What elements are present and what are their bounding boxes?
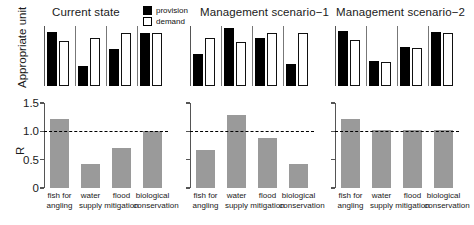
bar-r-biological-conservation (434, 130, 453, 188)
bar-demand-biological-conservation (298, 33, 308, 86)
group-separator (221, 26, 222, 86)
bar-demand-biological-conservation (152, 33, 162, 86)
top-panel-2-group-biological-conservation (428, 26, 459, 86)
bar-provision-biological-conservation (286, 64, 296, 86)
bar-r-flood-mitigation (403, 130, 422, 188)
bar-demand-water-supply (90, 38, 100, 86)
y-tick (331, 159, 335, 160)
y-tick (186, 159, 190, 160)
top-panel-0-group-biological-conservation (137, 26, 168, 86)
bar-demand-fish-for-angling (350, 40, 360, 86)
top-panel-current-state (44, 26, 168, 86)
top-panel-1-group-fish-for-angling (190, 26, 221, 86)
y-tick-label-1.5: 1.5 (23, 97, 39, 109)
group-separator (283, 26, 284, 86)
bar-r-flood-mitigation (112, 148, 131, 188)
bar-provision-flood-mitigation (255, 38, 265, 86)
y-tick (40, 102, 44, 103)
y-tick (186, 187, 190, 188)
group-separator (75, 26, 76, 86)
top-panel-1-group-flood-mitigation (252, 26, 283, 86)
legend-swatch-demand-icon (143, 17, 152, 26)
x-tick-label-biological-conservation: biological conservation (279, 191, 317, 210)
figure-root: provision demand Current state Managemen… (0, 0, 474, 225)
bar-demand-flood-mitigation (121, 33, 131, 86)
bar-r-biological-conservation (143, 131, 162, 188)
bar-r-biological-conservation (289, 164, 308, 188)
top-panel-scenario-2 (335, 26, 459, 86)
group-separator (366, 26, 367, 86)
group-separator (252, 26, 253, 86)
bottom-panel-scenario-1: fish for anglingwater supplyflood mitiga… (190, 103, 314, 188)
y-tick (331, 187, 335, 188)
y-tick-label-0: 0 (33, 182, 39, 194)
top-panel-1-group-biological-conservation (283, 26, 314, 86)
group-separator (106, 26, 107, 86)
bar-demand-water-supply (381, 62, 391, 86)
legend-label-provision: provision (156, 6, 188, 15)
bar-demand-fish-for-angling (205, 38, 215, 86)
reference-line-r1 (44, 131, 168, 132)
bar-provision-fish-for-angling (47, 32, 57, 86)
top-panel-0-group-fish-for-angling (44, 26, 75, 86)
bar-r-water-supply (81, 164, 100, 188)
bar-r-flood-mitigation (258, 138, 277, 188)
y-tick (40, 187, 44, 188)
group-separator (428, 26, 429, 86)
top-panel-2-group-flood-mitigation (397, 26, 428, 86)
top-panel-scenario-1 (190, 26, 314, 86)
bar-provision-flood-mitigation (109, 49, 119, 86)
bar-demand-flood-mitigation (412, 48, 422, 86)
top-panel-2-group-water-supply (366, 26, 397, 86)
top-y-axis-label: Appropriate unit (16, 7, 28, 88)
bottom-panel-scenario-2: fish for anglingwater supplyflood mitiga… (335, 103, 459, 188)
y-tick-label-1.0: 1.0 (23, 125, 39, 137)
legend-entry-demand: demand (143, 16, 185, 26)
bar-provision-water-supply (369, 61, 379, 86)
reference-line-r1 (190, 131, 314, 132)
bar-demand-flood-mitigation (267, 33, 277, 86)
y-tick (331, 102, 335, 103)
bottom-panel-current-state: 00.51.01.5fish for anglingwater supplyfl… (44, 103, 168, 188)
x-tick-label-biological-conservation: biological conservation (424, 191, 462, 210)
bottom-panel-1-axis (190, 103, 191, 188)
bottom-panel-0-axis (44, 103, 45, 188)
bar-provision-biological-conservation (140, 33, 150, 86)
bar-demand-water-supply (236, 42, 246, 86)
top-panel-2-group-fish-for-angling (335, 26, 366, 86)
bar-r-fish-for-angling (50, 119, 69, 188)
bar-r-fish-for-angling (341, 119, 360, 188)
y-tick-label-0.5: 0.5 (23, 154, 39, 166)
bar-provision-fish-for-angling (338, 31, 348, 86)
x-tick-label-biological-conservation: biological conservation (133, 191, 171, 210)
y-tick (40, 159, 44, 160)
bar-provision-water-supply (78, 66, 88, 86)
bar-demand-biological-conservation (443, 33, 453, 86)
group-separator (397, 26, 398, 86)
legend-swatch-provision-icon (143, 6, 152, 15)
panel-title-current-state: Current state (52, 6, 120, 18)
reference-line-r1 (335, 131, 459, 132)
top-panel-0-group-flood-mitigation (106, 26, 137, 86)
legend-entry-provision: provision (143, 5, 188, 15)
bar-r-water-supply (227, 115, 246, 188)
y-tick (186, 102, 190, 103)
bar-r-fish-for-angling (196, 150, 215, 188)
panel-title-scenario-1: Management scenario−1 (200, 6, 329, 18)
bar-provision-water-supply (224, 28, 234, 86)
top-panel-1-group-water-supply (221, 26, 252, 86)
top-panel-0-group-water-supply (75, 26, 106, 86)
bar-r-water-supply (372, 130, 391, 188)
legend-label-demand: demand (156, 17, 185, 26)
group-separator (137, 26, 138, 86)
bar-demand-fish-for-angling (59, 41, 69, 86)
bar-provision-biological-conservation (431, 32, 441, 86)
panel-title-scenario-2: Management scenario−2 (336, 6, 465, 18)
bottom-panel-2-axis (335, 103, 336, 188)
bar-provision-flood-mitigation (400, 47, 410, 86)
bar-provision-fish-for-angling (193, 54, 203, 86)
